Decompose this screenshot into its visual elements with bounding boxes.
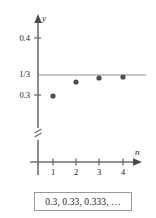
data-point <box>50 93 55 98</box>
x-tick-label-1: 1 <box>48 168 58 177</box>
x-tick-label-4: 4 <box>118 168 128 177</box>
y-tick-label-one-third: 1/3 <box>4 70 30 79</box>
x-tick-label-2: 2 <box>71 168 81 177</box>
figure-container: y n 0.4 1/3 0.3 1 2 3 4 0.3, 0.33, 0.333… <box>0 0 156 218</box>
data-point <box>120 74 125 79</box>
x-axis-arrowhead <box>133 158 142 165</box>
caption-box: 0.3, 0.33, 0.333, … <box>34 192 132 211</box>
y-tick-label-0-4: 0.4 <box>4 34 30 43</box>
data-point <box>73 79 78 84</box>
data-point <box>96 75 101 80</box>
y-axis-label: y <box>42 14 46 23</box>
y-axis-break-icon <box>35 129 42 137</box>
x-tick-label-3: 3 <box>94 168 104 177</box>
y-axis-arrowhead <box>34 14 41 23</box>
x-axis-label: n <box>135 148 140 157</box>
y-tick-label-0-3: 0.3 <box>4 91 30 100</box>
caption-text: 0.3, 0.33, 0.333, … <box>45 197 121 207</box>
